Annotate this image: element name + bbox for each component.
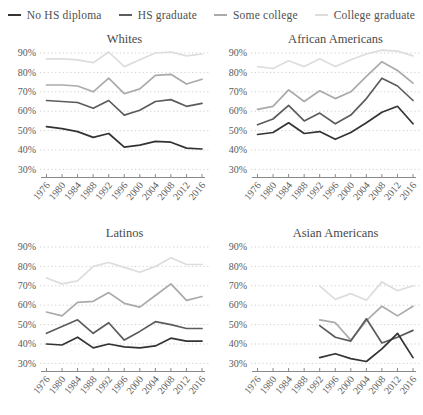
legend-line-swatch xyxy=(8,14,21,16)
legend-label: HS graduate xyxy=(138,9,197,21)
y-axis-tick-label: 90% xyxy=(18,47,36,58)
y-axis-tick-label: 50% xyxy=(18,125,36,136)
y-axis-tick-label: 70% xyxy=(229,86,247,97)
line-chart-asian-americans: Asian Americans90%80%70%60%50%40%30%1976… xyxy=(211,221,422,415)
series-line-no-hs-diploma xyxy=(47,127,203,149)
y-axis-tick-label: 60% xyxy=(229,299,247,310)
y-axis-tick-label: 80% xyxy=(229,67,247,78)
series-line-some-college xyxy=(47,284,203,316)
legend-label: College graduate xyxy=(334,9,415,21)
y-axis-tick-label: 60% xyxy=(18,105,36,116)
y-axis-tick-label: 60% xyxy=(18,299,36,310)
chart-title: African Americans xyxy=(288,32,383,46)
y-axis-tick-label: 90% xyxy=(229,47,247,58)
legend-line-swatch xyxy=(214,14,227,16)
y-axis-tick-label: 40% xyxy=(229,338,247,349)
legend-item-no-hs-diploma: No HS diploma xyxy=(8,9,102,21)
y-axis-tick-label: 70% xyxy=(18,280,36,291)
chart-panel-whites: Whites90%80%70%60%50%40%30%1976198019841… xyxy=(0,27,211,221)
series-line-hs-graduate xyxy=(47,320,203,340)
chart-legend: No HS diplomaHS graduateSome collegeColl… xyxy=(0,0,423,27)
chart-panel-asian-americans: Asian Americans90%80%70%60%50%40%30%1976… xyxy=(211,221,422,415)
y-axis-tick-label: 90% xyxy=(18,241,36,252)
legend-line-swatch xyxy=(315,14,328,16)
y-axis-tick-label: 80% xyxy=(229,261,247,272)
y-axis-tick-label: 30% xyxy=(18,164,36,175)
legend-line-swatch xyxy=(119,14,132,16)
legend-label: Some college xyxy=(233,9,298,21)
y-axis-tick-label: 50% xyxy=(18,319,36,330)
charts-grid: Whites90%80%70%60%50%40%30%1976198019841… xyxy=(0,27,423,415)
x-axis-tick-label: 2016 xyxy=(397,180,418,202)
y-axis-tick-label: 80% xyxy=(18,261,36,272)
y-axis-tick-label: 70% xyxy=(229,280,247,291)
y-axis-tick-label: 40% xyxy=(18,338,36,349)
legend-item-college-graduate: College graduate xyxy=(315,9,415,21)
y-axis-tick-label: 60% xyxy=(229,105,247,116)
x-axis-tick-label: 2016 xyxy=(186,374,207,396)
series-line-some-college xyxy=(258,62,414,110)
chart-title: Whites xyxy=(107,32,143,46)
series-line-college-graduate xyxy=(47,258,203,284)
chart-panel-african-americans: African Americans90%80%70%60%50%40%30%19… xyxy=(211,27,422,221)
series-line-college-graduate xyxy=(320,282,413,300)
y-axis-tick-label: 30% xyxy=(229,164,247,175)
y-axis-tick-label: 50% xyxy=(229,125,247,136)
x-axis-tick-label: 2016 xyxy=(397,374,418,396)
legend-label: No HS diploma xyxy=(27,9,102,21)
y-axis-tick-label: 50% xyxy=(229,319,247,330)
y-axis-tick-label: 40% xyxy=(229,144,247,155)
line-chart-whites: Whites90%80%70%60%50%40%30%1976198019841… xyxy=(0,27,211,221)
y-axis-tick-label: 40% xyxy=(18,144,36,155)
line-chart-latinos: Latinos90%80%70%60%50%40%30%197619801984… xyxy=(0,221,211,415)
chart-panel-latinos: Latinos90%80%70%60%50%40%30%197619801984… xyxy=(0,221,211,415)
chart-title: Asian Americans xyxy=(293,226,379,240)
y-axis-tick-label: 70% xyxy=(18,86,36,97)
series-line-some-college xyxy=(47,74,203,93)
line-chart-african-americans: African Americans90%80%70%60%50%40%30%19… xyxy=(211,27,422,221)
y-axis-tick-label: 90% xyxy=(229,241,247,252)
legend-item-some-college: Some college xyxy=(214,9,298,21)
chart-title: Latinos xyxy=(106,226,144,240)
x-axis-tick-label: 2016 xyxy=(186,180,207,202)
legend-item-hs-graduate: HS graduate xyxy=(119,9,197,21)
series-line-no-hs-diploma xyxy=(320,333,413,361)
series-line-college-graduate xyxy=(47,52,203,67)
series-line-hs-graduate xyxy=(47,100,203,116)
y-axis-tick-label: 30% xyxy=(18,358,36,369)
series-line-hs-graduate xyxy=(258,78,414,125)
education-voting-small-multiples: No HS diplomaHS graduateSome collegeColl… xyxy=(0,0,423,415)
y-axis-tick-label: 30% xyxy=(229,358,247,369)
y-axis-tick-label: 80% xyxy=(18,67,36,78)
